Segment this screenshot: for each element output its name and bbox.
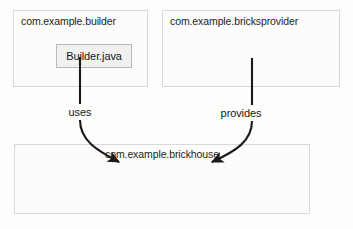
package-box-builder: com.example.builder Builder.java bbox=[13, 10, 148, 87]
package-label-bricksprovider: com.example.bricksprovider bbox=[170, 15, 298, 27]
package-diagram: com.example.builder Builder.java com.exa… bbox=[0, 0, 353, 229]
package-label-brickhouse: com.example.brickhouse bbox=[105, 148, 219, 160]
package-label-builder: com.example.builder bbox=[21, 15, 116, 27]
package-box-brickhouse: com.example.brickhouse BrickHouse interf… bbox=[14, 144, 310, 214]
package-box-bricksprovider: com.example.bricksprovider BricksProvide… bbox=[162, 10, 340, 87]
edge-label-uses: uses bbox=[66, 106, 95, 118]
node-builder-java: Builder.java bbox=[56, 44, 132, 68]
edge-label-provides: provides bbox=[218, 107, 265, 119]
